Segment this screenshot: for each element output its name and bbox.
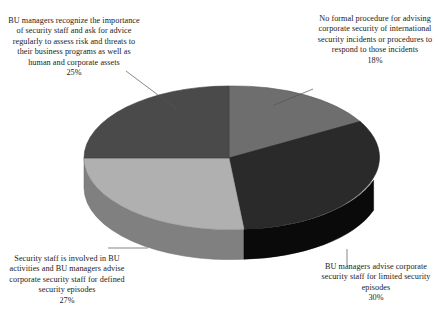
pie-top-faces — [84, 86, 379, 230]
callout-percent-no-formal-procedure: 18% — [316, 56, 434, 66]
callout-label-defined-security-episodes: Security staff is involved in BU activit… — [4, 254, 130, 306]
callout-label-no-formal-procedure: No formal procedure for advising corpora… — [316, 14, 434, 66]
callout-text-advice-regularly: BU managers recognize the importance of … — [8, 16, 139, 67]
slice-top-advice-regularly — [84, 86, 229, 158]
callout-percent-defined-security-episodes: 27% — [4, 296, 130, 306]
callout-text-defined-security-episodes: Security staff is involved in BU activit… — [9, 254, 124, 294]
callout-label-limited-security-episodes: BU managers advise corporate security st… — [318, 262, 434, 304]
callout-percent-limited-security-episodes: 30% — [318, 293, 434, 303]
callout-text-no-formal-procedure: No formal procedure for advising corpora… — [318, 14, 433, 54]
pie-chart-figure: BU managers recognize the importance of … — [0, 0, 439, 330]
callout-text-limited-security-episodes: BU managers advise corporate security st… — [322, 262, 431, 292]
callout-label-advice-regularly: BU managers recognize the importance of … — [8, 16, 140, 78]
callout-percent-advice-regularly: 25% — [8, 68, 140, 78]
